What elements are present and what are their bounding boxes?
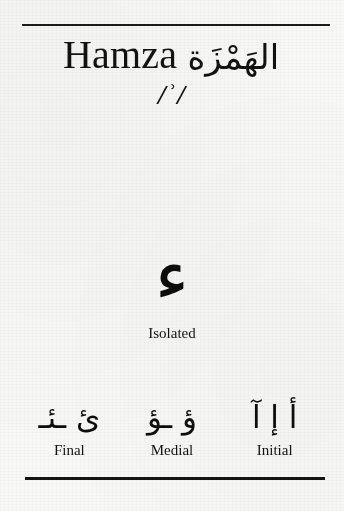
medial-form-label: Medial	[121, 441, 224, 459]
positional-forms-row: ئ ـئـ Final ؤ ـؤ Medial أ إ آ Initial	[18, 396, 326, 459]
isolated-label: Isolated	[0, 324, 344, 342]
isolated-glyph: ء	[0, 236, 344, 312]
form-column-medial: ؤ ـؤ Medial	[121, 396, 224, 459]
form-column-final: ئ ـئـ Final	[18, 396, 121, 459]
letter-card: Hamza الهَمْزَة /ʾ/ ء Isolated ئ ـئـ Fin…	[0, 0, 344, 511]
initial-form-glyphs: أ إ آ	[223, 396, 326, 438]
form-column-initial: أ إ آ Initial	[223, 396, 326, 459]
title-latin: Hamza	[63, 32, 177, 77]
phonetic-transcription: /ʾ/	[0, 79, 344, 111]
isolated-form-block: ء Isolated	[0, 236, 344, 342]
medial-form-glyphs: ؤ ـؤ	[121, 396, 224, 438]
top-divider-rule	[22, 24, 330, 26]
initial-form-label: Initial	[223, 441, 326, 459]
final-form-label: Final	[18, 441, 121, 459]
final-form-glyphs: ئ ـئـ	[18, 396, 121, 438]
page-title: Hamza الهَمْزَة	[0, 30, 344, 81]
card-header: Hamza الهَمْزَة /ʾ/	[0, 30, 344, 111]
bottom-divider-rule	[25, 477, 325, 480]
title-arabic: الهَمْزَة	[187, 37, 281, 77]
